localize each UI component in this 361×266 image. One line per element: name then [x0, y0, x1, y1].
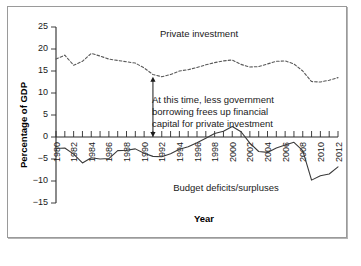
figure-frame: Percentage of GDP 25 20 15 10 5 0 −5 −10…	[7, 6, 347, 238]
x-tick-marks	[56, 131, 338, 137]
x-tick-label: 2002	[245, 142, 255, 162]
series-label-private-investment: Private investment	[160, 28, 239, 39]
x-axis-title: Year	[194, 213, 214, 224]
y-tick-label: 5	[43, 109, 48, 119]
y-tick-labels: 25 20 15 10 5 0 −5 −10 −15	[33, 21, 48, 207]
y-tick-label: −15	[33, 197, 48, 207]
y-axis-title: Percentage of GDP	[18, 81, 29, 168]
chart-canvas: Percentage of GDP 25 20 15 10 5 0 −5 −10…	[8, 7, 346, 237]
series-private-investment	[56, 53, 338, 82]
x-tick-label: 1994	[175, 142, 185, 162]
y-tick-label: −10	[33, 175, 48, 185]
x-tick-labels: 1980198219841986198819901992199419961998…	[52, 142, 344, 162]
x-tick-label: 2000	[228, 142, 238, 162]
series-label-budget-deficits: Budget deficits/surpluses	[173, 182, 279, 193]
y-tick-label: 20	[38, 43, 48, 53]
x-tick-label: 2012	[334, 142, 344, 162]
annotation-line-1: At this time, less government	[152, 94, 274, 105]
annotation-text-block: At this time, less government borrowing …	[152, 94, 274, 129]
x-tick-label: 1996	[193, 142, 203, 162]
x-tick-label: 1980	[52, 142, 62, 162]
y-tick-label: −5	[38, 153, 48, 163]
y-tick-label: 0	[43, 131, 48, 141]
y-tick-marks	[51, 27, 56, 203]
annotation-line-3: capital for private investment	[152, 118, 273, 129]
y-tick-label: 25	[38, 21, 48, 31]
y-tick-label: 15	[38, 65, 48, 75]
x-tick-label: 2010	[316, 142, 326, 162]
x-tick-label: 1992	[157, 142, 167, 162]
y-tick-label: 10	[38, 87, 48, 97]
x-tick-label: 1988	[122, 142, 132, 162]
x-tick-label: 1998	[210, 142, 220, 162]
annotation-line-2: borrowing frees up financial	[152, 106, 268, 117]
